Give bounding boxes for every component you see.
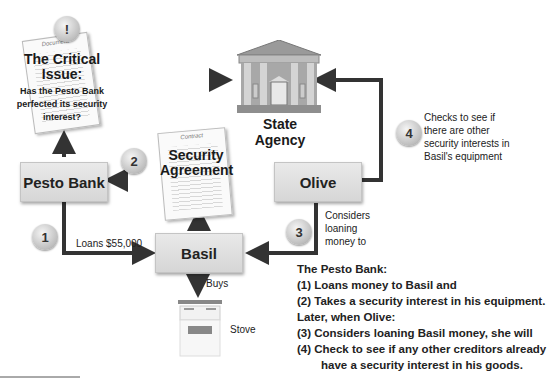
- summary-heading: The Pesto Bank:: [297, 261, 546, 277]
- summary-item-4: (4) Check to see if any other creditors …: [297, 341, 546, 357]
- step-3-badge: 3: [286, 219, 312, 245]
- stove-icon: [176, 300, 224, 358]
- state-agency-label: State Agency: [237, 116, 323, 148]
- pesto-bank-node: Pesto Bank: [20, 162, 108, 202]
- step-4-badge: 4: [396, 120, 422, 146]
- summary-later: Later, when Olive:: [297, 309, 546, 325]
- step-1-text: Loans $55,000: [76, 237, 142, 250]
- critical-issue-question: Has the Pesto Bankperfected its security…: [14, 85, 110, 124]
- summary-item-4-cont: have a security interest in his goods.: [297, 357, 546, 373]
- olive-node: Olive: [274, 162, 362, 202]
- security-agreement-label: SecurityAgreement: [160, 148, 232, 178]
- critical-issue-text: The CriticalIssue: Has the Pesto Bankper…: [14, 52, 110, 124]
- stove-label: Stove: [230, 323, 256, 336]
- step-2-badge: 2: [121, 148, 147, 174]
- step-4-text: Checks to see ifthere are othersecurity …: [424, 111, 510, 163]
- state-agency-building-icon: [235, 40, 323, 114]
- summary-text: The Pesto Bank: (1) Loans money to Basil…: [297, 261, 546, 373]
- exclamation-badge-icon: !: [54, 16, 80, 42]
- step-1-badge: 1: [32, 224, 58, 250]
- step-3-text: Considersloaningmoney to: [325, 209, 370, 248]
- contract-label: Contract: [159, 130, 225, 142]
- summary-item-2: (2) Takes a security interest in his equ…: [297, 293, 546, 309]
- critical-issue-title: The CriticalIssue:: [14, 52, 110, 82]
- summary-item-1: (1) Loans money to Basil and: [297, 277, 546, 293]
- summary-item-3: (3) Considers loaning Basil money, she w…: [297, 325, 546, 341]
- basil-node: Basil: [155, 233, 243, 273]
- buys-label: Buys: [206, 277, 228, 290]
